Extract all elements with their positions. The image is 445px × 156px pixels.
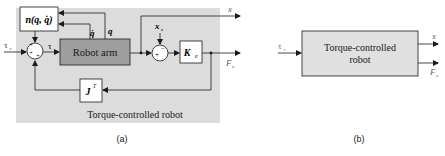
- figure-a: n(q, q̇) + + + Robot arm + − K e: [4, 4, 240, 144]
- label-tau-r-sub: r: [10, 46, 12, 51]
- label-tau: τ: [48, 41, 52, 51]
- sum-junction-2: + −: [152, 45, 168, 61]
- nonlinear-block: n(q, q̇): [20, 7, 58, 31]
- label-b-x: x: [431, 31, 436, 41]
- label-q-dot: q̇: [90, 28, 95, 38]
- label-b-f-sub: e: [436, 73, 439, 78]
- label-output-x: x: [227, 4, 232, 14]
- figure-b: Torque-controlled robot τ r x F e (b): [278, 31, 439, 144]
- caption-b: (b): [354, 134, 365, 144]
- sum2-sign-plus: +: [155, 51, 159, 59]
- robot-arm-label: Robot arm: [73, 47, 118, 58]
- label-b-tau-r-sub: r: [284, 47, 286, 52]
- label-q: q: [108, 26, 113, 36]
- stiffness-label: K: [183, 47, 192, 58]
- stiffness-subscript: e: [195, 53, 198, 59]
- stiffness-block: K e: [180, 41, 202, 63]
- label-b-f: F: [429, 67, 436, 77]
- block-diagram: n(q, q̇) + + + Robot arm + − K e: [0, 0, 445, 156]
- label-output-f-sub: e: [232, 64, 235, 69]
- label-output-f: F: [225, 58, 232, 68]
- block-b-line2: robot: [349, 54, 370, 65]
- label-tau-r: τ: [4, 40, 8, 50]
- panel-a-label: Torque-controlled robot: [87, 109, 183, 120]
- branch-dot-f: [210, 52, 213, 55]
- robot-arm-block: Robot arm: [60, 39, 130, 65]
- nonlinear-block-label: n(q, q̇): [25, 14, 52, 26]
- jacobian-block: J T: [80, 79, 102, 102]
- block-b-line1: Torque-controlled: [324, 42, 396, 53]
- sum2-sign-minus: −: [161, 45, 165, 53]
- branch-dot-x: [140, 52, 143, 55]
- label-b-tau-r: τ: [278, 41, 282, 51]
- caption-a: (a): [117, 134, 128, 144]
- jacobian-label: J: [85, 86, 92, 97]
- label-x-e: x: [154, 21, 160, 31]
